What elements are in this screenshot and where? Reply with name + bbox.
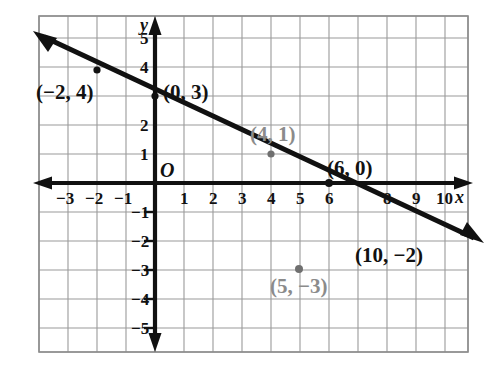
y-tick-label-2: 2 xyxy=(140,117,149,134)
point-label-6-0: (6, 0) xyxy=(327,158,373,179)
x-tick-label-2: 2 xyxy=(209,190,218,207)
y-tick-label--3: −3 xyxy=(131,262,149,279)
x-tick-label-10: 10 xyxy=(436,190,453,207)
y-tick-label-5: 5 xyxy=(140,30,149,47)
origin-label: O xyxy=(160,160,174,180)
y-tick-label-1: 1 xyxy=(140,146,149,163)
x-tick-label--3: −3 xyxy=(56,190,74,207)
y-tick-label--1: −1 xyxy=(131,204,149,221)
point-marker-neg2-4 xyxy=(93,66,100,73)
point-marker-0-3 xyxy=(151,92,158,99)
y-tick-label-4: 4 xyxy=(140,59,149,76)
x-tick-label-3: 3 xyxy=(238,190,247,207)
point-marker-5-neg3 xyxy=(295,265,303,273)
point-marker-4-1 xyxy=(267,150,274,157)
point-marker-6-0 xyxy=(325,179,333,187)
graph-figure: y x O −3 −2 −1 1 2 3 4 5 6 8 9 10 5 4 2 … xyxy=(0,0,494,366)
x-tick-label-8: 8 xyxy=(383,190,392,207)
y-tick-label--4: −4 xyxy=(131,291,149,308)
x-tick-label--1: −1 xyxy=(114,190,132,207)
y-tick-label--2: −2 xyxy=(131,233,149,250)
x-tick-label-6: 6 xyxy=(325,190,334,207)
point-label-5-neg3: (5, −3) xyxy=(270,276,327,297)
x-tick-label-4: 4 xyxy=(267,190,276,207)
x-tick-label-9: 9 xyxy=(412,190,421,207)
x-tick-label-1: 1 xyxy=(180,190,189,207)
point-label-neg2-4: (−2, 4) xyxy=(36,82,93,103)
point-label-0-3: (0, 3) xyxy=(163,82,209,103)
coordinate-plane-svg xyxy=(0,0,494,366)
x-tick-label-5: 5 xyxy=(296,190,305,207)
point-label-10-neg2: (10, −2) xyxy=(355,245,423,266)
x-tick-label--2: −2 xyxy=(85,190,103,207)
y-tick-label--5: −5 xyxy=(131,320,149,337)
point-label-4-1: (4, 1) xyxy=(250,124,296,145)
x-axis-name: x xyxy=(455,188,464,206)
